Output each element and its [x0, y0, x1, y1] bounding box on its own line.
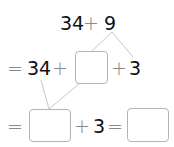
line3-equals-2: =: [107, 116, 123, 136]
line3-answer-box-2[interactable]: [127, 108, 169, 142]
line3-number-c: 3: [93, 116, 105, 136]
line1-number-b: 9: [104, 13, 116, 33]
line2-number-c: 3: [129, 58, 141, 78]
line3-answer-box-1[interactable]: [29, 109, 71, 142]
line2-plus-2: +: [111, 58, 127, 78]
line1-number-a: 34: [60, 13, 84, 33]
line2-answer-box[interactable]: [75, 51, 108, 84]
line2-equals: =: [7, 58, 23, 78]
line3-equals: =: [7, 116, 23, 136]
line2-plus-1: +: [52, 58, 68, 78]
line1-plus: +: [83, 13, 99, 33]
line3-plus: +: [74, 116, 90, 136]
line2-number-a: 34: [27, 58, 51, 78]
